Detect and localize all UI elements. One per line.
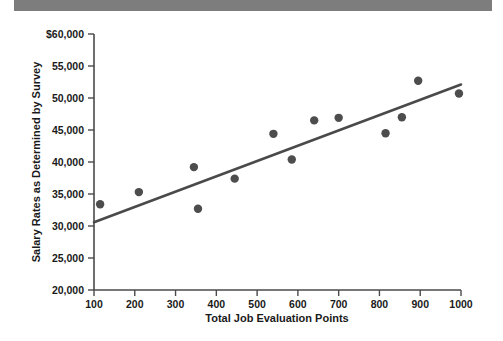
x-tick-label: 600 [289, 298, 307, 310]
data-point [190, 163, 198, 171]
scatter-chart-figure: 20,00025,00030,00035,00040,00045,00050,0… [0, 0, 503, 341]
y-tick-label: 25,000 [52, 252, 84, 264]
data-point [310, 116, 318, 124]
trendline-segment [94, 85, 461, 223]
y-axis-ticks [88, 34, 94, 290]
x-axis-ticks [94, 290, 461, 296]
data-point [398, 113, 406, 121]
data-point [455, 89, 463, 97]
data-point [334, 114, 342, 122]
x-tick-label: 200 [126, 298, 144, 310]
x-tick-label: 400 [208, 298, 226, 310]
x-tick-label: 800 [371, 298, 389, 310]
data-points-group [96, 77, 463, 213]
y-tick-label: $60,000 [46, 28, 84, 40]
data-point [288, 155, 296, 163]
data-point [230, 174, 238, 182]
y-tick-label: 40,000 [52, 156, 84, 168]
y-tick-label: 50,000 [52, 92, 84, 104]
regression-trendline [94, 85, 461, 223]
x-tick-label: 700 [330, 298, 348, 310]
x-tick-label: 1000 [449, 298, 473, 310]
data-point [96, 200, 104, 208]
x-axis-title: Total Job Evaluation Points [205, 312, 348, 324]
y-tick-label: 55,000 [52, 60, 84, 72]
data-point [269, 130, 277, 138]
y-tick-label: 20,000 [52, 284, 84, 296]
y-axis-title: Salary Rates as Determined by Survey [30, 61, 42, 262]
x-tick-label: 500 [248, 298, 266, 310]
chart-canvas: 20,00025,00030,00035,00040,00045,00050,0… [0, 0, 503, 341]
y-tick-label: 30,000 [52, 220, 84, 232]
data-point [414, 77, 422, 85]
x-tick-label: 900 [411, 298, 429, 310]
data-point [381, 129, 389, 137]
x-tick-label: 100 [85, 298, 103, 310]
data-point [135, 188, 143, 196]
y-axis-tick-labels: 20,00025,00030,00035,00040,00045,00050,0… [46, 28, 84, 296]
y-tick-label: 35,000 [52, 188, 84, 200]
data-point [194, 205, 202, 213]
x-axis-tick-labels: 1002003004005006007008009001000 [85, 298, 473, 310]
y-tick-label: 45,000 [52, 124, 84, 136]
x-tick-label: 300 [167, 298, 185, 310]
